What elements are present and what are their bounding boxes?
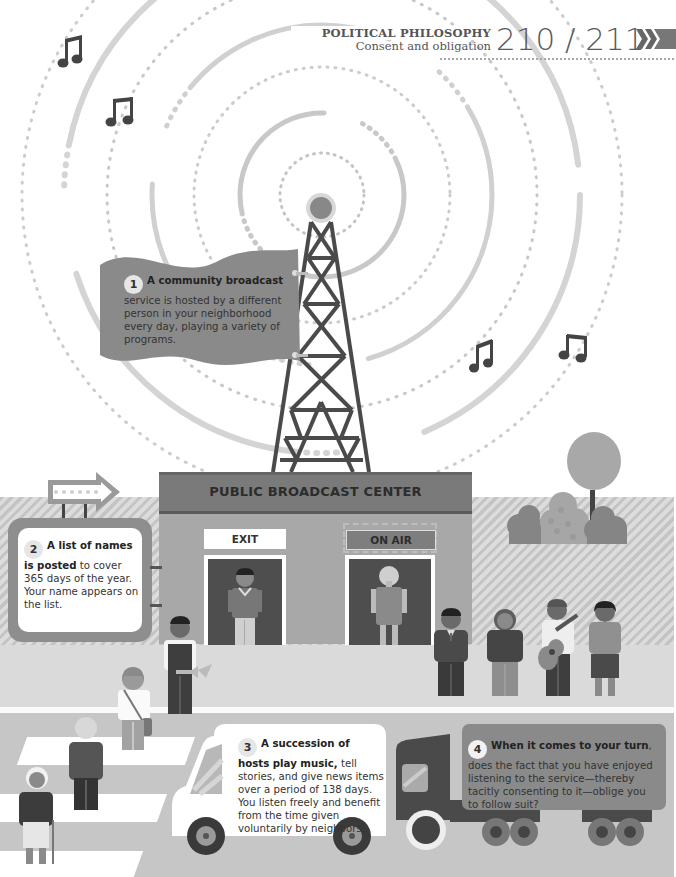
arrow-sign bbox=[44, 470, 124, 518]
elderly-person-with-cane bbox=[16, 764, 58, 864]
person-with-bag bbox=[112, 666, 156, 762]
page-numbers: 210 / 211 bbox=[496, 21, 645, 57]
step-2-caption: 2A list of names is posted to cover 365 … bbox=[24, 539, 142, 611]
section-subtitle: Consent and obligation bbox=[291, 39, 491, 53]
person-in-on-air-door bbox=[366, 565, 412, 647]
person-with-guitar bbox=[530, 598, 586, 696]
person-in-suit bbox=[428, 608, 474, 696]
building-sign: PUBLIC BROADCAST CENTER bbox=[159, 484, 472, 499]
on-air-sign: ON AIR bbox=[346, 530, 436, 550]
marquee-bracket-bottom bbox=[150, 604, 162, 607]
step-4-caption: 4When it comes to your turn, does the fa… bbox=[468, 739, 658, 811]
step-number-badge: 1 bbox=[124, 275, 143, 294]
step-1-heading: A community broadcast bbox=[147, 275, 283, 286]
step-3-text: tell stories, and give news items over a… bbox=[238, 758, 384, 834]
section-title: POLITICAL PHILOSOPHY bbox=[291, 26, 491, 40]
exit-sign: EXIT bbox=[204, 529, 286, 549]
step-number-badge: 3 bbox=[238, 738, 257, 757]
double-chevron-right-icon[interactable] bbox=[636, 27, 676, 51]
step-number-badge: 2 bbox=[24, 540, 43, 559]
step-1-text: service is hosted by a different person … bbox=[124, 295, 282, 345]
step-number-badge: 4 bbox=[468, 740, 487, 759]
step-3-caption: 3A succession of hosts play music, tell … bbox=[238, 737, 384, 835]
person-with-skirt bbox=[585, 600, 625, 696]
step-1-caption: 1A community broadcast service is hosted… bbox=[124, 274, 294, 346]
bushes bbox=[505, 488, 631, 546]
step-4-heading: When it comes to your turn bbox=[491, 740, 649, 751]
person-hoodie bbox=[485, 608, 525, 696]
music-note-icon bbox=[555, 330, 591, 364]
music-note-icon bbox=[103, 95, 137, 129]
header-divider bbox=[440, 58, 674, 60]
person-in-exit-door bbox=[222, 568, 268, 646]
music-note-icon bbox=[468, 335, 498, 373]
music-note-icon bbox=[56, 33, 88, 69]
person-with-trumpet bbox=[160, 614, 216, 714]
person-bald bbox=[66, 714, 106, 810]
tree-crown bbox=[567, 432, 621, 490]
page-header: POLITICAL PHILOSOPHY Consent and obligat… bbox=[380, 12, 674, 62]
marquee-bracket-top bbox=[150, 566, 162, 569]
